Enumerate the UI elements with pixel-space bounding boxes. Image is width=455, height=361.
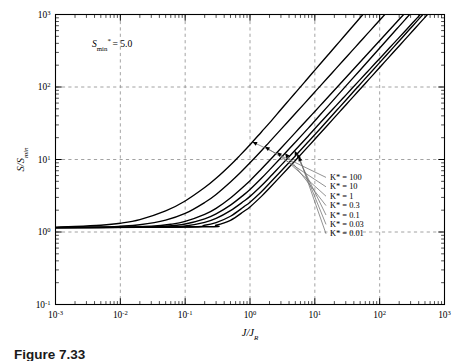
- log-log-chart: 10-310-210-110010110210310-1100101102103…: [0, 0, 455, 361]
- legend-label-100: K* = 100: [330, 173, 362, 182]
- legend-label-0p1: K* = 0.1: [330, 211, 360, 220]
- legend-label-0p3: K* = 0.3: [330, 201, 360, 210]
- figure-panel: 10-310-210-110010110210310-1100101102103…: [0, 0, 455, 361]
- legend-label-0p03: K* = 0.03: [330, 220, 364, 229]
- figure-caption: Figure 7.33: [14, 347, 86, 361]
- legend-label-1: K* = 1: [330, 192, 353, 201]
- legend-label-10: K* = 10: [330, 182, 358, 191]
- figure-caption-text: Figure 7.33: [14, 347, 86, 361]
- legend-label-0p01: K* = 0.01: [330, 229, 364, 238]
